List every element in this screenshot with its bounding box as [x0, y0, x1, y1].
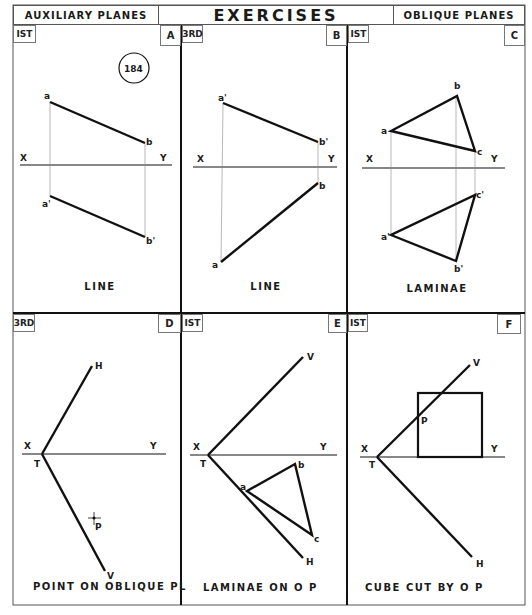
- label-b: b: [146, 137, 153, 147]
- label-y: Y: [327, 154, 335, 164]
- header-auxiliary-planes: AUXILIARY PLANES: [13, 5, 159, 25]
- projector: [221, 103, 223, 262]
- angle-tag-c: IST: [348, 25, 369, 43]
- label-a-prime: a': [218, 93, 227, 103]
- panel-letter-a: A: [160, 25, 181, 46]
- label-y: Y: [319, 442, 327, 452]
- label-x: X: [197, 154, 204, 164]
- label-h: H: [306, 557, 314, 567]
- label-c-prime: c': [476, 190, 484, 200]
- label-b: b: [454, 81, 461, 91]
- angle-tag-e: IST: [182, 314, 203, 332]
- label-t: T: [369, 460, 376, 470]
- panel-letter-f: F: [497, 314, 521, 334]
- plan-line-ab: [50, 102, 145, 143]
- outer-frame: [13, 5, 525, 605]
- label-x: X: [20, 153, 27, 163]
- label-b: b: [298, 460, 305, 470]
- label-y: Y: [490, 444, 498, 454]
- label-y: Y: [490, 154, 498, 164]
- exercise-sheet: a b a' b' X Y a' b' b a X Y a b c c' a' …: [0, 0, 532, 615]
- label-v: V: [307, 352, 314, 362]
- label-c: c: [477, 147, 482, 157]
- caption-e: LAMINAE ON O P: [203, 582, 343, 593]
- ht-trace: [377, 457, 472, 557]
- label-t: T: [200, 459, 207, 469]
- panel-letter-c: C: [504, 25, 525, 46]
- label-p: P: [421, 416, 428, 426]
- angle-tag-a: IST: [13, 25, 36, 43]
- panel-letter-d: D: [158, 314, 181, 333]
- angle-tag-f: IST: [348, 314, 368, 332]
- label-a-prime: a': [381, 232, 390, 242]
- caption-f: CUBE CUT BY O P: [365, 582, 525, 593]
- elevation-triangle: [391, 195, 475, 261]
- label-x: X: [193, 442, 200, 452]
- panel-e-drawing: [190, 357, 337, 558]
- label-x: X: [361, 444, 368, 454]
- elevation-line-a1b1: [50, 196, 145, 237]
- label-a: a: [212, 260, 218, 270]
- label-a-prime: a': [42, 199, 51, 209]
- caption-a: LINE: [20, 281, 180, 292]
- label-b-prime: b': [454, 264, 463, 274]
- caption-b: LINE: [186, 281, 346, 292]
- label-h: H: [476, 559, 484, 569]
- panel-letter-e: E: [328, 314, 347, 333]
- elevation-line-a1b1: [223, 103, 318, 142]
- label-p: P: [95, 522, 102, 532]
- label-y: Y: [159, 153, 167, 163]
- caption-d: POINT ON OBLIQUE PL: [33, 581, 183, 592]
- drawing-canvas: a b a' b' X Y a' b' b a X Y a b c c' a' …: [0, 0, 532, 615]
- label-v: V: [107, 571, 114, 581]
- exercise-number: 184: [124, 64, 143, 74]
- label-x: X: [24, 441, 31, 451]
- label-c: c: [314, 534, 319, 544]
- header-oblique-planes: OBLIQUE PLANES: [393, 5, 525, 25]
- vt-trace: [42, 454, 105, 571]
- page-title: EXERCISES: [158, 5, 394, 25]
- label-x: X: [366, 154, 373, 164]
- ht-trace: [42, 366, 92, 454]
- label-a: a: [381, 126, 387, 136]
- panel-f-drawing: [360, 365, 505, 557]
- panel-letter-b: B: [326, 25, 347, 46]
- vt-trace: [208, 357, 303, 455]
- label-v: V: [473, 358, 480, 368]
- label-t: T: [34, 459, 41, 469]
- label-a: a: [240, 482, 246, 492]
- panel-d-drawing: [22, 366, 166, 571]
- vt-trace: [377, 365, 470, 457]
- angle-tag-b: 3RD: [182, 25, 203, 43]
- lamina-triangle: [247, 464, 312, 535]
- angle-tag-d: 3RD: [13, 314, 35, 332]
- plan-triangle: [391, 96, 475, 151]
- ht-trace: [208, 455, 303, 558]
- plan-line-ab: [221, 183, 318, 262]
- label-a: a: [44, 91, 50, 101]
- label-b: b: [319, 181, 326, 191]
- label-h: H: [95, 361, 103, 371]
- caption-c: LAMINAE: [352, 283, 522, 294]
- panel-b-drawing: [193, 103, 337, 262]
- label-b-prime: b': [146, 236, 155, 246]
- label-y: Y: [149, 441, 157, 451]
- label-b-prime: b': [319, 137, 328, 147]
